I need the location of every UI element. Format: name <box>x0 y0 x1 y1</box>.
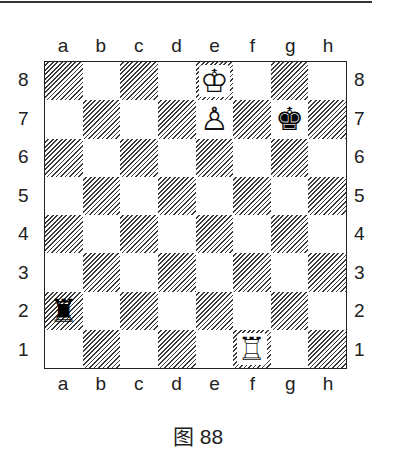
square-g5 <box>271 177 309 215</box>
piece-glyph: ♔ <box>199 65 230 97</box>
white-rook-icon: ♖ <box>233 330 271 368</box>
rank-label-5: 5 <box>18 177 29 216</box>
square-d2 <box>158 292 196 330</box>
rank-label-7: 7 <box>18 100 29 139</box>
file-label-c: c <box>120 36 158 56</box>
square-c6 <box>120 139 158 177</box>
square-f7 <box>233 100 271 138</box>
square-h2 <box>308 292 346 330</box>
piece-glyph: ♙ <box>199 103 230 135</box>
square-c7 <box>120 100 158 138</box>
square-a7 <box>45 100 83 138</box>
square-a3 <box>45 253 83 291</box>
rank-label-6: 6 <box>18 138 29 177</box>
piece-glyph: ♖ <box>237 333 268 365</box>
rank-label-1: 1 <box>18 331 29 370</box>
square-a1 <box>45 330 83 368</box>
file-label-f: f <box>233 36 271 56</box>
square-b6 <box>83 139 121 177</box>
file-label-e: e <box>196 374 234 394</box>
square-e6 <box>196 139 234 177</box>
square-h8 <box>308 62 346 100</box>
square-a6 <box>45 139 83 177</box>
square-d3 <box>158 253 196 291</box>
square-e5 <box>196 177 234 215</box>
square-g4 <box>271 215 309 253</box>
file-label-d: d <box>158 374 196 394</box>
square-f2 <box>233 292 271 330</box>
square-b2 <box>83 292 121 330</box>
rank-label-6: 6 <box>354 138 365 177</box>
square-g1 <box>271 330 309 368</box>
square-c1 <box>120 330 158 368</box>
square-d1 <box>158 330 196 368</box>
square-b4 <box>83 215 121 253</box>
square-h7 <box>308 100 346 138</box>
file-labels-bottom: abcdefgh <box>44 374 347 394</box>
rank-label-2: 2 <box>18 292 29 331</box>
square-h5 <box>308 177 346 215</box>
square-f5 <box>233 177 271 215</box>
white-king-icon: ♔ <box>196 62 234 100</box>
square-g3 <box>271 253 309 291</box>
square-h3 <box>308 253 346 291</box>
square-c8 <box>120 62 158 100</box>
white-pawn-icon: ♙ <box>196 100 234 138</box>
file-label-a: a <box>44 374 82 394</box>
piece-glyph: ♚ <box>275 103 304 135</box>
black-king-icon: ♚ <box>271 100 309 138</box>
square-d5 <box>158 177 196 215</box>
file-label-b: b <box>82 36 120 56</box>
square-d7 <box>158 100 196 138</box>
square-d4 <box>158 215 196 253</box>
rank-label-4: 4 <box>354 215 365 254</box>
rank-label-5: 5 <box>354 177 365 216</box>
square-g7: ♚ <box>271 100 309 138</box>
square-e3 <box>196 253 234 291</box>
square-b7 <box>83 100 121 138</box>
square-h4 <box>308 215 346 253</box>
square-g6 <box>271 139 309 177</box>
square-c2 <box>120 292 158 330</box>
rank-label-3: 3 <box>18 254 29 293</box>
square-h6 <box>308 139 346 177</box>
square-f6 <box>233 139 271 177</box>
square-a4 <box>45 215 83 253</box>
rank-label-2: 2 <box>354 292 365 331</box>
file-label-g: g <box>271 36 309 56</box>
black-rook-icon: ♜ <box>45 292 83 330</box>
file-label-b: b <box>82 374 120 394</box>
square-f1: ♖ <box>233 330 271 368</box>
square-c4 <box>120 215 158 253</box>
square-a8 <box>45 62 83 100</box>
square-a5 <box>45 177 83 215</box>
rank-label-8: 8 <box>18 61 29 100</box>
rank-label-7: 7 <box>354 100 365 139</box>
square-f3 <box>233 253 271 291</box>
file-label-h: h <box>309 374 347 394</box>
file-label-h: h <box>309 36 347 56</box>
square-e7: ♙ <box>196 100 234 138</box>
chess-board: ♔♙♚♜♖ <box>44 61 347 369</box>
square-d6 <box>158 139 196 177</box>
rank-label-3: 3 <box>354 254 365 293</box>
square-b8 <box>83 62 121 100</box>
file-label-e: e <box>196 36 234 56</box>
square-c5 <box>120 177 158 215</box>
square-b1 <box>83 330 121 368</box>
square-g8 <box>271 62 309 100</box>
file-label-f: f <box>233 374 271 394</box>
file-label-d: d <box>158 36 196 56</box>
rank-label-4: 4 <box>18 215 29 254</box>
piece-glyph: ♜ <box>49 295 78 327</box>
figure-caption: 图 88 <box>0 420 396 450</box>
top-rule <box>0 1 372 3</box>
square-e2 <box>196 292 234 330</box>
square-d8 <box>158 62 196 100</box>
square-f4 <box>233 215 271 253</box>
square-c3 <box>120 253 158 291</box>
file-label-a: a <box>44 36 82 56</box>
square-g2 <box>271 292 309 330</box>
file-label-c: c <box>120 374 158 394</box>
file-label-g: g <box>271 374 309 394</box>
